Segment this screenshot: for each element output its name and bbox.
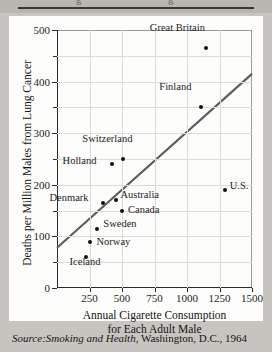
data-point xyxy=(120,209,124,213)
y-axis-tick-label: 500 xyxy=(34,24,51,36)
data-point-label: Holland xyxy=(63,155,97,166)
data-point-label: U.S. xyxy=(230,180,249,191)
page-top-fragment: g g xyxy=(0,0,272,13)
y-axis-tick xyxy=(52,185,57,186)
page-top-ghost-text-right: g xyxy=(168,0,174,5)
figure-card: Deaths per Million Males from Lung Cance… xyxy=(9,16,263,321)
data-point-label: Australia xyxy=(121,189,160,200)
gridline-vertical xyxy=(155,30,156,288)
plot-area: 0100200300400500250500750100012501500Gre… xyxy=(57,30,252,288)
data-point-label: Great Britain xyxy=(150,22,205,33)
source-note: Source:Smoking and Health, Washington, D… xyxy=(12,332,270,344)
data-point xyxy=(223,188,227,192)
x-axis-tick-label: 750 xyxy=(146,292,163,304)
data-point-label: Iceland xyxy=(70,256,101,267)
y-axis-tick-label: 0 xyxy=(45,282,51,294)
y-axis-tick-label: 200 xyxy=(34,179,51,191)
page-top-ghost-text-left: g xyxy=(76,0,82,5)
x-axis-title-line1: Annual Cigarette Consumption xyxy=(57,308,252,322)
data-point xyxy=(101,201,105,205)
x-axis-tick-label: 250 xyxy=(81,292,98,304)
y-axis-tick xyxy=(52,30,57,31)
data-point xyxy=(114,198,118,202)
y-axis-minor-tick xyxy=(53,211,57,212)
gridline-vertical xyxy=(187,30,188,288)
source-title: Smoking and Health xyxy=(46,332,136,344)
y-axis-tick xyxy=(52,236,57,237)
y-axis-minor-tick xyxy=(53,107,57,108)
data-point xyxy=(95,227,99,231)
y-axis-tick xyxy=(52,82,57,83)
y-axis-minor-tick xyxy=(53,159,57,160)
y-axis-tick-label: 300 xyxy=(34,127,51,139)
page-top-rule xyxy=(18,7,254,9)
data-point-label: Switzerland xyxy=(82,133,132,144)
x-axis-tick-label: 1250 xyxy=(209,292,231,304)
y-axis-minor-tick xyxy=(53,56,57,57)
x-axis-tick-label: 500 xyxy=(114,292,131,304)
data-point-label: Finland xyxy=(159,81,191,92)
data-point-label: Denmark xyxy=(50,192,89,203)
y-axis-tick-label: 400 xyxy=(34,76,51,88)
y-axis-title-text: Deaths per Million Males from Lung Cance… xyxy=(21,60,33,266)
data-point-label: Sweden xyxy=(103,218,136,229)
data-point-label: Canada xyxy=(128,204,160,215)
y-axis-tick xyxy=(52,288,57,289)
source-prefix: Source: xyxy=(12,332,46,344)
data-point xyxy=(110,162,114,166)
source-rest: , Washington, D.C., 1964 xyxy=(136,332,247,344)
y-axis-minor-tick xyxy=(53,262,57,263)
data-point xyxy=(88,240,92,244)
x-axis-tick-label: 1000 xyxy=(176,292,198,304)
y-axis-title: Deaths per Million Males from Lung Cance… xyxy=(19,32,35,294)
data-point-label: Norway xyxy=(97,236,131,247)
gridline-vertical xyxy=(220,30,221,288)
y-axis-tick-label: 100 xyxy=(34,230,51,242)
y-axis-tick xyxy=(52,133,57,134)
x-axis-tick-label: 1500 xyxy=(241,292,263,304)
data-point xyxy=(204,46,208,50)
